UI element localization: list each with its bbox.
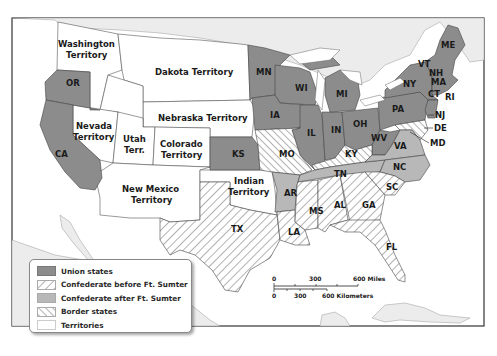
- legend-label: Confederate after Ft. Sumter: [61, 294, 181, 303]
- label-wi: WI: [295, 83, 308, 93]
- label-utah-territory-2: Terr.: [124, 145, 145, 155]
- map-legend: Union states Confederate before Ft. Sumt…: [29, 259, 192, 333]
- scale-miles-zero: 0: [272, 275, 276, 282]
- label-ri: RI: [445, 92, 455, 102]
- label-va: VA: [394, 141, 407, 151]
- label-ks: KS: [232, 149, 245, 159]
- label-tx: TX: [231, 224, 244, 234]
- label-nebraska-territory: Nebraska Territory: [158, 113, 248, 123]
- label-nj: NJ: [435, 110, 445, 120]
- legend-label: Border states: [61, 307, 117, 316]
- label-ms: MS: [309, 206, 324, 216]
- label-ny: NY: [403, 79, 417, 89]
- label-new-mexico-territory-1: New Mexico: [122, 184, 179, 194]
- label-pa: PA: [392, 104, 404, 114]
- label-ar: AR: [284, 188, 298, 198]
- legend-item-confederate-after: Confederate after Ft. Sumter: [37, 292, 181, 304]
- scale-km-mid: 300: [294, 292, 307, 299]
- label-ky: KY: [345, 149, 359, 159]
- label-utah-territory-1: Utah: [123, 134, 146, 144]
- label-indian-territory-1: Indian: [234, 176, 264, 186]
- legend-item-territories: Territories: [37, 319, 104, 331]
- label-ct: CT: [428, 89, 440, 99]
- label-sc: SC: [386, 182, 398, 192]
- label-nevada-territory-2: Territory: [73, 132, 115, 142]
- label-il: IL: [307, 128, 316, 138]
- label-new-mexico-territory-2: Territory: [131, 195, 173, 205]
- label-mi: MI: [336, 89, 348, 99]
- label-ca: CA: [55, 149, 68, 159]
- legend-item-union: Union states: [37, 265, 113, 277]
- label-washington-territory-1: Washington: [58, 39, 115, 49]
- legend-label: Territories: [61, 321, 104, 330]
- label-ma: MA: [431, 77, 446, 87]
- label-md: MD: [430, 138, 446, 148]
- label-mo: MO: [279, 149, 295, 159]
- label-ia: IA: [270, 110, 280, 120]
- label-ga: GA: [362, 200, 376, 210]
- hatch-slash-swatch: [37, 307, 56, 317]
- state-ms[interactable]: [295, 180, 318, 230]
- label-tn: TN: [334, 169, 347, 179]
- label-al: AL: [334, 200, 347, 210]
- legend-item-confederate-before: Confederate before Ft. Sumter: [37, 279, 188, 291]
- label-fl: FL: [386, 242, 398, 252]
- legend-item-border: Border states: [37, 306, 117, 318]
- territories-swatch: [37, 320, 56, 330]
- label-or: OR: [66, 78, 80, 88]
- label-nevada-territory-1: Nevada: [76, 121, 112, 131]
- label-nc: NC: [393, 162, 406, 172]
- scale-miles-mid: 300: [309, 275, 322, 282]
- scale-miles-end: 600 Miles: [353, 275, 386, 282]
- label-indian-territory-2: Territory: [228, 187, 270, 197]
- label-oh: OH: [353, 119, 367, 129]
- label-colorado-territory-1: Colorado: [160, 139, 203, 149]
- label-in: IN: [331, 125, 341, 135]
- hatch-backslash-swatch: [37, 280, 56, 290]
- label-dakota-territory: Dakota Territory: [155, 67, 234, 77]
- label-colorado-territory-2: Territory: [161, 150, 203, 160]
- confederate-after-swatch: [37, 293, 56, 303]
- union-swatch: [37, 266, 56, 276]
- legend-label: Confederate before Ft. Sumter: [61, 280, 188, 289]
- label-washington-territory-2: Territory: [66, 50, 108, 60]
- label-mn: MN: [256, 67, 272, 77]
- label-wv: WV: [371, 133, 387, 143]
- scale-km-zero: 0: [272, 292, 276, 299]
- label-la: LA: [288, 227, 300, 237]
- scale-km-end: 600 Kilometers: [322, 292, 374, 299]
- label-me: ME: [441, 40, 455, 50]
- legend-label: Union states: [61, 267, 113, 276]
- label-de: DE: [434, 123, 447, 133]
